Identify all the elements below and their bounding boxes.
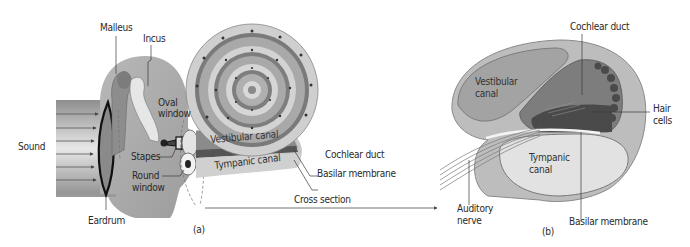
label-auditory-nerve-line2: nerve (457, 215, 482, 226)
label-malleus: Malleus (100, 22, 133, 33)
label-incus: Incus (143, 33, 165, 44)
label-hair-cells-line2: cells (653, 115, 672, 126)
label-tympanic-canal-b-line1: Tympanic (529, 152, 570, 163)
label-tympanic-canal-b-line2: canal (529, 164, 552, 175)
label-vestibular-canal-b-line2: canal (475, 88, 498, 99)
panel-b-tag: (b) (542, 226, 554, 237)
label-basilar-membrane-b: Basilar membrane (569, 216, 648, 227)
ear-anatomy-diagram: Malleus Incus Oval window Sound Stapes R… (0, 0, 690, 247)
label-round-window-line2: window (132, 182, 165, 193)
label-vestibular-canal-b-line1: Vestibular (475, 76, 517, 87)
cochlea-cross-section (452, 40, 646, 202)
label-basilar-membrane-a: Basilar membrane (317, 168, 396, 179)
diagram-artwork (0, 0, 690, 247)
label-sound: Sound (18, 141, 45, 152)
label-eardrum: Eardrum (88, 215, 125, 226)
label-oval-window-line2: window (158, 108, 191, 119)
label-cochlear-duct-b: Cochlear duct (570, 21, 629, 32)
label-auditory-nerve-line1: Auditory (457, 203, 493, 214)
panel-a-tag: (a) (193, 224, 205, 235)
label-hair-cells-line1: Hair (653, 103, 671, 114)
label-round-window-line1: Round (132, 170, 159, 181)
oval-window (182, 130, 198, 156)
label-cross-section: Cross section (294, 194, 351, 205)
label-cochlear-duct-a: Cochlear duct (325, 149, 384, 160)
label-stapes: Stapes (131, 151, 160, 162)
